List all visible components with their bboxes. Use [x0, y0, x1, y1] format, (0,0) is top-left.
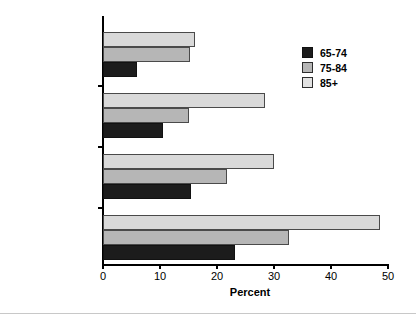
legend-item-85plus: 85+ — [302, 76, 347, 89]
x-axis-line — [102, 264, 389, 266]
bar-75-84-use-hearing-aid — [103, 47, 190, 62]
bar-65-74-trouble-hearing — [103, 184, 191, 199]
x-tick-20 — [216, 264, 218, 269]
y-tick-2 — [98, 207, 103, 209]
bar-65-74-use-hearing-aid — [103, 62, 137, 77]
bar-75-84-deafness — [103, 108, 189, 123]
y-tick-0 — [98, 85, 103, 87]
bar-85+-use-hearing-aid — [103, 32, 195, 47]
x-tick-label-30: 30 — [268, 270, 280, 282]
y-tick-1 — [98, 146, 103, 148]
x-tick-40 — [330, 264, 332, 269]
x-tick-label-50: 50 — [382, 270, 394, 282]
chart-figure: Use hearing aidDeafnessTrouble hearingIm… — [0, 0, 416, 322]
x-tick-label-20: 20 — [211, 270, 223, 282]
x-tick-0 — [102, 264, 104, 269]
bar-75-84-trouble-hearing — [103, 169, 227, 184]
x-tick-label-10: 10 — [154, 270, 166, 282]
x-tick-10 — [159, 264, 161, 269]
x-tick-30 — [273, 264, 275, 269]
bar-85+-trouble-hearing — [103, 154, 274, 169]
chart-legend: 65-74 75-84 85+ — [302, 46, 347, 91]
bottom-divider — [0, 313, 416, 314]
legend-swatch-65-74 — [302, 47, 313, 58]
legend-item-65-74: 65-74 — [302, 46, 347, 59]
x-axis-title: Percent — [0, 286, 416, 298]
x-tick-label-40: 40 — [325, 270, 337, 282]
legend-item-75-84: 75-84 — [302, 61, 347, 74]
bar-65-74-impaired — [103, 245, 235, 260]
legend-swatch-75-84 — [302, 62, 313, 73]
legend-label-75-84: 75-84 — [320, 62, 347, 74]
x-tick-label-0: 0 — [100, 270, 106, 282]
bar-75-84-impaired — [103, 230, 289, 245]
bar-65-74-deafness — [103, 123, 163, 138]
bar-85+-impaired — [103, 215, 380, 230]
legend-label-85plus: 85+ — [320, 77, 338, 89]
legend-label-65-74: 65-74 — [320, 47, 347, 59]
legend-swatch-85plus — [302, 77, 313, 88]
x-tick-50 — [387, 264, 389, 269]
bar-85+-deafness — [103, 93, 265, 108]
